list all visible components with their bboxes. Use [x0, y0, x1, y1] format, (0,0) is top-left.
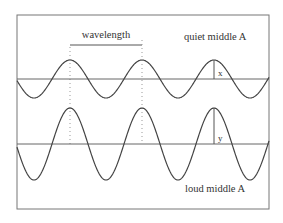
quiet-label: quiet middle A: [184, 31, 247, 42]
diagram-frame: [17, 15, 269, 209]
sound-wave-diagram: wavelength x quiet middle A y loud middl…: [0, 0, 283, 223]
quiet-amplitude-label: x: [218, 68, 223, 78]
wavelength-label: wavelength: [82, 29, 131, 40]
loud-label: loud middle A: [185, 183, 246, 194]
loud-amplitude-label: y: [218, 133, 223, 143]
